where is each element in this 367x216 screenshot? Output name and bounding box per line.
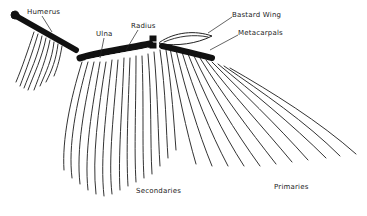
label-bastard-wing: Bastard Wing bbox=[232, 12, 281, 19]
label-secondaries: Secondaries bbox=[136, 188, 181, 195]
label-primaries: Primaries bbox=[274, 184, 309, 191]
label-humerus: Humerus bbox=[27, 9, 60, 16]
ulna-radius-bone bbox=[80, 44, 150, 58]
humerus-bone bbox=[16, 16, 76, 50]
label-metacarpals: Metacarpals bbox=[238, 30, 283, 37]
bastard-wing-shape bbox=[160, 33, 212, 45]
wing-diagram: Humerus Ulna Radius Bastard Wing Metacar… bbox=[0, 0, 367, 216]
metacarpal-bone bbox=[162, 46, 212, 58]
label-ulna: Ulna bbox=[96, 31, 113, 38]
label-radius: Radius bbox=[131, 23, 156, 30]
secondary-feathers bbox=[64, 50, 176, 196]
wing-illustration bbox=[0, 0, 367, 216]
primary-feathers bbox=[170, 48, 356, 166]
